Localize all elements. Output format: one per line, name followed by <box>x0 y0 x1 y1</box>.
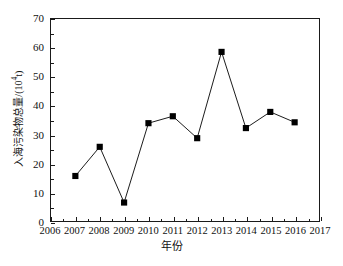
y-axis-tick-mark <box>51 77 55 78</box>
x-axis-tick-label: 2009 <box>113 225 134 237</box>
data-series-line: 2007: 15.62008: 25.72009: 6.42010: 33.92… <box>51 19 319 221</box>
series-line <box>75 52 294 203</box>
y-axis-tick-label: 70 <box>33 13 44 24</box>
x-axis-minor-tick-mark <box>284 219 285 222</box>
y-axis-title-prefix: 入海污染物总量/(10 <box>13 81 24 167</box>
data-point-marker: 2008: 25.7 <box>97 144 103 150</box>
y-axis-tick-label: 20 <box>33 158 44 169</box>
x-axis-minor-tick-mark <box>161 219 162 222</box>
x-axis-tick-mark <box>149 217 150 221</box>
x-axis-tick-label: 2017 <box>310 225 331 237</box>
chart-figure: 2007: 15.62008: 25.72009: 6.42010: 33.92… <box>0 0 343 266</box>
y-axis-title-exponent: 4 <box>10 77 19 81</box>
y-axis-tick-label: 30 <box>33 129 44 140</box>
x-axis-tick-label: 2013 <box>211 225 232 237</box>
plot-area: 2007: 15.62008: 25.72009: 6.42010: 33.92… <box>50 18 320 222</box>
y-axis-tick-mark <box>51 194 55 195</box>
x-axis-tick-mark <box>223 217 224 221</box>
data-point-marker: 2012: 28.7 <box>194 135 200 141</box>
x-axis-tick-label: 2014 <box>236 225 257 237</box>
x-axis-tick-mark <box>296 217 297 221</box>
y-axis-tick-label: 50 <box>33 71 44 82</box>
x-axis-tick-mark <box>125 217 126 221</box>
y-axis-minor-tick-mark <box>51 208 54 209</box>
y-axis-title: 入海污染物总量/(104t) <box>9 39 24 199</box>
x-axis-tick-label: 2008 <box>89 225 110 237</box>
x-axis-tick-mark <box>198 217 199 221</box>
x-axis-tick-mark <box>321 217 322 221</box>
y-axis-minor-tick-mark <box>51 34 54 35</box>
x-axis-tick-label: 2006 <box>40 225 61 237</box>
y-axis-tick-mark <box>51 165 55 166</box>
x-axis-tick-label: 2015 <box>260 225 281 237</box>
x-axis-minor-tick-mark <box>88 219 89 222</box>
y-axis-minor-tick-mark <box>51 179 54 180</box>
x-axis-tick-label: 2012 <box>187 225 208 237</box>
x-axis-minor-tick-mark <box>211 219 212 222</box>
y-axis-tick-label: 60 <box>33 42 44 53</box>
x-axis-tick-mark <box>247 217 248 221</box>
x-axis-minor-tick-mark <box>260 219 261 222</box>
data-point-marker: 2009: 6.4 <box>121 199 127 205</box>
x-axis-tick-label: 2011 <box>162 225 183 237</box>
y-axis-minor-tick-mark <box>51 92 54 93</box>
data-point-marker: 2013: 58.6 <box>218 49 224 55</box>
y-axis-tick-mark <box>51 48 55 49</box>
x-axis-minor-tick-mark <box>63 219 64 222</box>
y-axis-minor-tick-mark <box>51 63 54 64</box>
x-axis-tick-mark <box>100 217 101 221</box>
x-axis-tick-label: 2016 <box>285 225 306 237</box>
y-axis-minor-tick-mark <box>51 121 54 122</box>
data-point-marker: 2007: 15.6 <box>72 173 78 179</box>
x-axis-tick-labels: 2006200720082009201020112012201320142015… <box>0 225 343 241</box>
x-axis-tick-mark <box>51 217 52 221</box>
x-axis-minor-tick-mark <box>112 219 113 222</box>
x-axis-minor-tick-mark <box>137 219 138 222</box>
data-point-marker: 2014: 32.2 <box>243 125 249 131</box>
x-axis-minor-tick-mark <box>186 219 187 222</box>
x-axis-minor-tick-mark <box>235 219 236 222</box>
y-axis-tick-label: 10 <box>33 187 44 198</box>
x-axis-tick-label: 2010 <box>138 225 159 237</box>
x-axis-tick-mark <box>272 217 273 221</box>
data-point-marker: 2010: 33.9 <box>145 120 151 126</box>
y-axis-title-suffix: t) <box>13 71 24 77</box>
x-axis-title: 年份 <box>0 240 343 253</box>
y-axis-tick-mark <box>51 19 55 20</box>
x-axis-minor-tick-mark <box>309 219 310 222</box>
y-axis-tick-label: 40 <box>33 100 44 111</box>
data-point-marker: 2015: 37.8 <box>267 109 273 115</box>
x-axis-tick-mark <box>174 217 175 221</box>
y-axis-minor-tick-mark <box>51 150 54 151</box>
data-point-marker: 2011: 36.3 <box>170 113 176 119</box>
y-axis-tick-mark <box>51 136 55 137</box>
y-axis-tick-mark <box>51 106 55 107</box>
data-point-marker: 2016: 34.2 <box>292 119 298 125</box>
y-axis-tick-mark <box>51 223 55 224</box>
x-axis-tick-label: 2007 <box>64 225 85 237</box>
x-axis-tick-mark <box>76 217 77 221</box>
